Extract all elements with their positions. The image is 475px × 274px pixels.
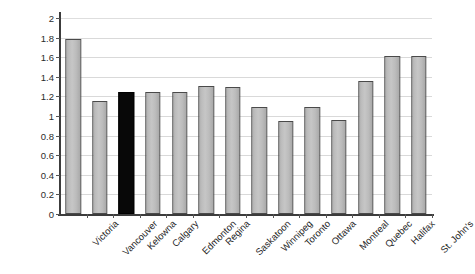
plot-area <box>60 18 432 214</box>
y-tick-label: 1 <box>8 111 54 122</box>
y-axis-line <box>59 12 61 214</box>
bars <box>60 18 432 214</box>
y-tick-label: 0.6 <box>8 150 54 161</box>
y-tick-label: 1.2 <box>8 91 54 102</box>
x-axis-label: Victoria <box>90 218 120 248</box>
y-tick-mark <box>56 96 60 97</box>
x-axis-label: Halifax <box>408 218 436 246</box>
y-tick-mark <box>56 194 60 195</box>
y-tick-mark <box>56 77 60 78</box>
bar[interactable] <box>411 56 426 214</box>
bar-slot <box>352 18 379 214</box>
bar[interactable] <box>305 107 320 214</box>
y-tick-mark <box>56 116 60 117</box>
bar[interactable] <box>145 92 160 215</box>
bar[interactable] <box>331 120 346 214</box>
y-tick-mark <box>56 155 60 156</box>
y-tick-label: 2 <box>8 13 54 24</box>
bar-slot <box>246 18 273 214</box>
x-axis-label: St. John's <box>438 218 475 255</box>
y-tick-label: 1.6 <box>8 52 54 63</box>
y-tick-label: 0 <box>8 209 54 220</box>
x-axis-label: Ottawa <box>329 218 358 247</box>
bar[interactable] <box>172 92 187 214</box>
y-tick-label: 0.4 <box>8 169 54 180</box>
bar-slot <box>219 18 246 214</box>
x-axis-category-labels: VictoriaVancouverKelownaCalgaryEdmontonR… <box>60 214 432 274</box>
bar-slot <box>326 18 353 214</box>
x-axis-label: Montreal <box>357 218 391 252</box>
y-tick-mark <box>56 38 60 39</box>
bar-slot <box>193 18 220 214</box>
y-tick-label: 0.8 <box>8 130 54 141</box>
y-tick-label: 1.8 <box>8 32 54 43</box>
bar[interactable] <box>225 87 240 214</box>
bar[interactable] <box>198 86 213 214</box>
bar[interactable] <box>278 121 293 214</box>
bar[interactable] <box>252 107 267 214</box>
y-tick-mark <box>56 136 60 137</box>
bar-slot <box>299 18 326 214</box>
bar[interactable] <box>92 101 107 214</box>
x-tick-mark <box>432 214 433 218</box>
bar[interactable] <box>358 81 373 214</box>
bar-slot <box>166 18 193 214</box>
bar-highlighted[interactable] <box>119 92 134 214</box>
bar-slot <box>87 18 114 214</box>
bar-slot <box>60 18 87 214</box>
y-tick-label: 1.4 <box>8 71 54 82</box>
y-tick-mark <box>56 175 60 176</box>
bar-slot <box>140 18 167 214</box>
bar[interactable] <box>66 39 81 214</box>
bar-slot <box>113 18 140 214</box>
bar-slot <box>379 18 406 214</box>
bar-slot <box>273 18 300 214</box>
y-tick-mark <box>56 57 60 58</box>
y-tick-label: 0.2 <box>8 189 54 200</box>
bar-slot <box>405 18 432 214</box>
y-tick-mark <box>56 18 60 19</box>
bar[interactable] <box>384 56 399 214</box>
